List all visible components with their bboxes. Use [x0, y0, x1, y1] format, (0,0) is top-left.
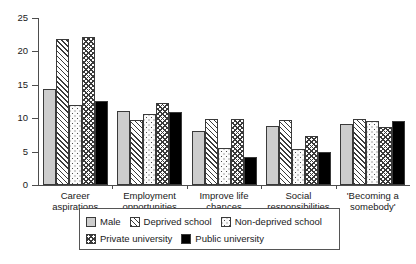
- y-tick-0: [32, 185, 38, 186]
- legend-swatch-icon: [86, 217, 96, 227]
- bar: [205, 119, 218, 185]
- bar: [95, 101, 108, 185]
- legend-item: Public university: [181, 234, 264, 244]
- bar: [169, 112, 182, 185]
- bar: [143, 114, 156, 185]
- legend-row-1: MaleDeprived schoolNon-deprived school: [86, 213, 333, 230]
- category-label-5: 'Becoming asomebody': [336, 190, 410, 212]
- bar: [69, 105, 82, 185]
- x-tick: [336, 185, 337, 189]
- y-tick-label-25: 25: [17, 13, 28, 23]
- legend-label: Deprived school: [144, 217, 212, 227]
- plot-area: [38, 18, 410, 185]
- bar-group: [43, 18, 108, 185]
- x-axis-line: [38, 185, 410, 186]
- legend-row-2: Private universityPublic university: [86, 230, 333, 247]
- legend-item: Male: [86, 217, 121, 227]
- bar-chart: 2520151050 CareeraspirationsEmploymentop…: [0, 0, 416, 264]
- bar: [231, 119, 244, 185]
- legend-label: Male: [100, 217, 121, 227]
- legend-swatch-icon: [181, 234, 191, 244]
- y-tick-label-20: 20: [17, 46, 28, 56]
- legend-item: Private university: [86, 234, 172, 244]
- category-label-line: Improve life: [187, 190, 261, 201]
- bar: [379, 127, 392, 185]
- x-tick: [261, 185, 262, 189]
- bar: [43, 89, 56, 185]
- bar: [266, 126, 279, 185]
- legend-item: Deprived school: [130, 217, 212, 227]
- bar: [192, 131, 205, 185]
- bar: [218, 148, 231, 185]
- bar: [56, 39, 69, 185]
- bar: [305, 136, 318, 185]
- bar: [130, 120, 143, 185]
- bar: [82, 37, 95, 185]
- y-tick-label-5: 5: [23, 147, 28, 157]
- legend-swatch-icon: [86, 234, 96, 244]
- bar: [156, 103, 169, 185]
- bar-group: [117, 18, 182, 185]
- bar-group: [266, 18, 331, 185]
- bar: [117, 111, 130, 185]
- legend-label: Public university: [195, 234, 264, 244]
- bar: [392, 121, 405, 185]
- legend-item: Non-deprived school: [221, 217, 322, 227]
- legend-swatch-icon: [221, 217, 231, 227]
- legend-label: Private university: [100, 234, 172, 244]
- legend-label: Non-deprived school: [235, 217, 322, 227]
- bar-group: [192, 18, 257, 185]
- category-label-line: 'Becoming a: [336, 190, 410, 201]
- bar: [366, 121, 379, 185]
- bar-group: [340, 18, 405, 185]
- category-label-line: Employment: [112, 190, 186, 201]
- bar: [279, 120, 292, 185]
- bar: [292, 149, 305, 185]
- y-tick-label-10: 10: [17, 113, 28, 123]
- bar: [340, 124, 353, 185]
- bar: [353, 119, 366, 185]
- bar: [318, 152, 331, 185]
- x-tick: [112, 185, 113, 189]
- legend-swatch-icon: [130, 217, 140, 227]
- bar: [244, 157, 257, 185]
- chart-legend: MaleDeprived schoolNon-deprived school P…: [79, 208, 340, 250]
- y-tick-label-0: 0: [23, 180, 28, 190]
- category-label-line: Career: [38, 190, 112, 201]
- x-tick: [187, 185, 188, 189]
- category-label-line: somebody': [336, 201, 410, 212]
- y-tick-label-15: 15: [17, 80, 28, 90]
- category-label-line: Social: [261, 190, 335, 201]
